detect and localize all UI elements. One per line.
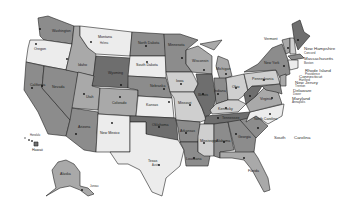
svg-text:Nevada: Nevada [52,85,64,89]
svg-text:Carolina: Carolina [294,135,311,140]
svg-text:New York: New York [264,61,279,65]
svg-text:Hawaii: Hawaii [32,148,43,152]
svg-text:Florida: Florida [248,169,259,173]
svg-text:South Dakota: South Dakota [136,63,158,67]
svg-text:Vermont: Vermont [264,37,277,41]
us-map: Washington Oregon California Nevada Idah… [0,0,355,212]
state-south-dakota[interactable] [128,56,166,78]
svg-text:Mississippi: Mississippi [200,139,218,143]
svg-text:Alaska: Alaska [60,172,71,176]
state-new-jersey[interactable] [280,74,286,86]
svg-text:Iowa: Iowa [176,79,184,83]
svg-text:Helena: Helena [100,41,109,45]
svg-text:Boston: Boston [304,61,314,65]
svg-text:Idaho: Idaho [78,63,87,67]
state-kansas[interactable] [136,96,174,118]
svg-text:Michigan: Michigan [216,67,230,71]
svg-text:Oklahoma: Oklahoma [152,123,168,127]
svg-text:North Dakota: North Dakota [138,41,159,45]
svg-text:Indiana: Indiana [214,89,226,93]
svg-text:Arizona: Arizona [78,125,90,129]
svg-text:Juneau: Juneau [90,184,99,188]
svg-text:Tennessee: Tennessee [222,116,239,120]
svg-text:Montana: Montana [98,35,112,39]
state-connecticut[interactable] [288,60,298,70]
svg-text:Arkansas: Arkansas [180,129,195,133]
svg-text:Honolulu: Honolulu [30,133,41,137]
svg-text:Oregon: Oregon [34,47,46,51]
svg-text:Wyoming: Wyoming [108,71,123,75]
svg-text:North Carolina: North Carolina [254,117,277,121]
svg-text:Wisconsin: Wisconsin [192,59,208,63]
svg-text:Washington: Washington [52,29,71,33]
svg-text:Texas: Texas [148,159,158,163]
svg-text:Virginia: Virginia [260,97,272,101]
svg-text:Annapolis: Annapolis [292,100,306,104]
svg-text:Nebraska: Nebraska [150,84,165,88]
svg-text:Minnesota: Minnesota [168,43,185,47]
svg-text:Concord: Concord [304,51,316,55]
svg-text:Kansas: Kansas [146,103,158,107]
svg-text:Alabama: Alabama [216,139,230,143]
svg-text:California: California [30,83,45,87]
svg-text:Georgia: Georgia [238,135,251,139]
svg-text:Pennsylvania: Pennsylvania [252,77,273,81]
svg-text:South: South [274,135,286,140]
svg-text:New Mexico: New Mexico [100,131,120,135]
svg-text:Utah: Utah [86,95,94,99]
svg-text:Colorado: Colorado [112,101,127,105]
